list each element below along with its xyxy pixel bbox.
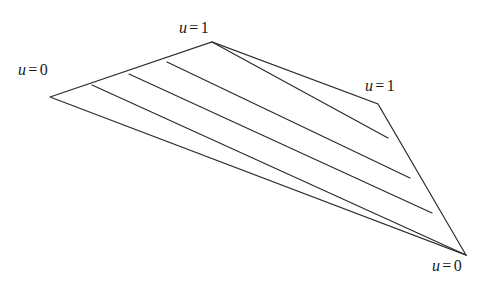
boundary-outline <box>50 42 466 255</box>
ruling-line-1 <box>92 85 466 255</box>
label-right-value: 1 <box>387 77 395 94</box>
label-top-variable: u <box>179 19 187 36</box>
ruling-line-2 <box>129 74 432 213</box>
label-u-equals-1-top: u=1 <box>179 20 209 36</box>
label-u-equals-1-right: u=1 <box>365 78 395 94</box>
label-right-equals: = <box>375 77 384 94</box>
label-u-equals-0-bottom: u=0 <box>432 258 462 274</box>
label-right-variable: u <box>365 77 373 94</box>
label-u-equals-0-left: u=0 <box>18 62 48 78</box>
ruled-surface-drawing <box>0 0 501 294</box>
surface-boundary-group <box>50 42 466 255</box>
ruling-lines-group <box>92 42 466 255</box>
label-bottom-value: 0 <box>454 257 462 274</box>
label-left-value: 0 <box>40 61 48 78</box>
ruled-surface-figure: u=0 u=1 u=1 u=0 <box>0 0 501 294</box>
label-left-variable: u <box>18 61 26 78</box>
label-left-equals: = <box>28 61 37 78</box>
label-top-equals: = <box>189 19 198 36</box>
label-bottom-variable: u <box>432 257 440 274</box>
label-top-value: 1 <box>201 19 209 36</box>
label-bottom-equals: = <box>442 257 451 274</box>
